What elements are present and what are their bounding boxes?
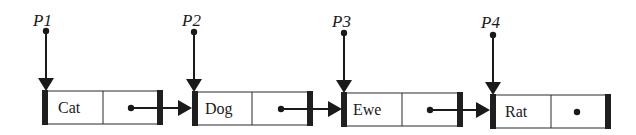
arrowhead-down-icon [38, 78, 54, 91]
node-value-ewe: Ewe [353, 101, 381, 118]
list-node-rat: Rat [490, 94, 611, 129]
arrowhead-down-icon [336, 80, 352, 93]
linked-list-diagram: P1 Cat P2 Dog P3 [0, 0, 636, 135]
null-pointer-dot-icon [574, 109, 580, 115]
node-value-cat: Cat [58, 99, 81, 116]
pointer-p2: P2 [181, 11, 202, 92]
pointer-label-p3: P3 [331, 12, 351, 31]
arrowhead-right-icon [476, 102, 490, 118]
arrowhead-down-icon [186, 79, 202, 92]
node-value-dog: Dog [205, 100, 233, 118]
arrowhead-right-icon [328, 101, 342, 117]
pointer-p4: P4 [480, 13, 501, 95]
node-value-rat: Rat [505, 103, 528, 120]
arrowhead-right-icon [178, 100, 192, 116]
pointer-label-p1: P1 [32, 11, 52, 30]
pointer-p3: P3 [331, 12, 352, 93]
arrowhead-down-icon [485, 82, 501, 95]
pointer-label-p4: P4 [480, 13, 500, 32]
pointer-p1: P1 [32, 11, 54, 91]
pointer-label-p2: P2 [181, 11, 201, 30]
